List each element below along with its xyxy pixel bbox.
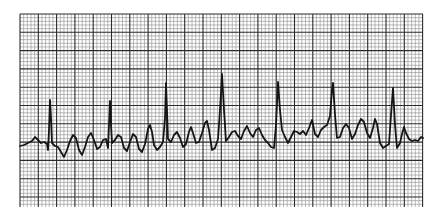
ecg-strip — [0, 0, 447, 220]
